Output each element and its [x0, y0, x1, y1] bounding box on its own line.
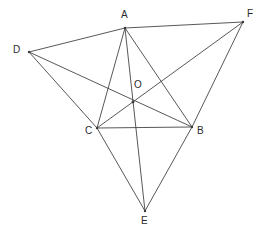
vertex-point-d	[28, 51, 30, 53]
segment-d-c	[29, 52, 97, 128]
segment-c-f	[97, 22, 243, 128]
segment-d-b	[29, 52, 192, 127]
vertex-point-b	[191, 126, 193, 128]
vertex-point-a	[124, 27, 126, 29]
vertex-label-o: O	[134, 80, 142, 90]
segment-a-b	[125, 28, 192, 127]
vertex-label-d: D	[13, 45, 20, 55]
segment-b-e	[145, 127, 192, 211]
segment-a-f	[125, 22, 243, 28]
vertex-point-e	[144, 210, 146, 212]
vertex-label-f: F	[247, 9, 253, 19]
vertex-point-f	[242, 21, 244, 23]
segment-d-a	[29, 28, 125, 52]
vertex-layer	[28, 21, 244, 212]
segment-b-f	[192, 22, 243, 127]
segment-a-c	[97, 28, 125, 128]
segment-a-e	[125, 28, 145, 211]
diagram-canvas	[0, 0, 265, 237]
vertex-point-o	[132, 101, 135, 104]
vertex-label-e: E	[141, 216, 148, 226]
vertex-label-a: A	[121, 10, 128, 20]
vertex-label-b: B	[197, 126, 204, 136]
segment-c-e	[97, 128, 145, 211]
segment-c-b	[97, 127, 192, 128]
geometry-figure: ABCDEFO	[0, 0, 265, 237]
vertex-point-c	[96, 127, 98, 129]
edge-layer	[29, 22, 243, 211]
vertex-label-c: C	[85, 126, 92, 136]
